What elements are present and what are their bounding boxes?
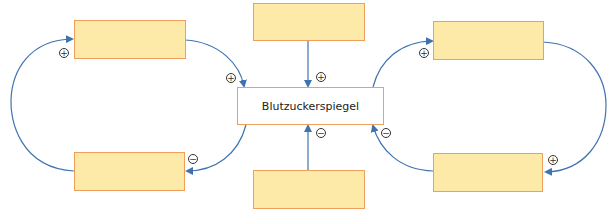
box-bottom-center[interactable] <box>253 170 365 209</box>
box-left-bottom[interactable] <box>74 152 185 191</box>
box-right-bottom[interactable] <box>433 153 543 192</box>
minus-sign-icon: − <box>188 154 198 164</box>
arrow-right-loop <box>543 42 606 172</box>
plus-sign-icon: + <box>419 48 429 58</box>
box-left-top[interactable] <box>74 20 186 59</box>
arrow-center-to-leftbottom <box>187 125 246 171</box>
plus-sign-icon: + <box>548 155 558 165</box>
minus-sign-icon: − <box>316 128 326 138</box>
plus-sign-icon: + <box>316 72 326 82</box>
center-box-blutzuckerspiegel: Blutzuckerspiegel <box>237 87 384 125</box>
box-right-top[interactable] <box>433 21 544 60</box>
box-top-center[interactable] <box>253 3 365 41</box>
center-label: Blutzuckerspiegel <box>262 100 359 113</box>
plus-sign-icon: + <box>59 48 69 58</box>
arrow-left-loop <box>11 39 74 171</box>
plus-sign-icon: + <box>226 73 236 83</box>
minus-sign-icon: − <box>381 128 391 138</box>
